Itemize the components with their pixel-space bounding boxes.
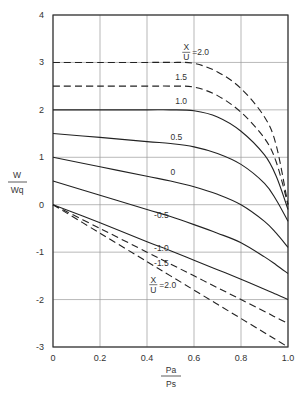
- curve-line: [53, 134, 288, 222]
- y-tick-label: 1: [39, 152, 44, 162]
- x-tick-label: 0.4: [141, 353, 154, 363]
- curve-line: [53, 86, 288, 205]
- curve-label: 0: [171, 167, 176, 177]
- curve-label: -0.5: [154, 210, 169, 220]
- curve-line: [53, 181, 288, 273]
- x-axis-label: Pa Ps: [161, 365, 181, 389]
- line-chart: 00.20.40.60.81.0 43210-1-2-3 XU=2.01.51.…: [0, 0, 304, 397]
- curve-label-fraction-den: U: [150, 285, 156, 295]
- curve-line: [53, 205, 288, 347]
- curve-line: [53, 205, 288, 324]
- curve-label: 0.5: [171, 132, 183, 142]
- x-tick-labels: 00.20.40.60.81.0: [50, 353, 294, 363]
- curve-label: 1.0: [175, 96, 187, 106]
- x-label-numerator: Pa: [166, 365, 177, 375]
- curve-label-fraction-num: X: [183, 42, 189, 52]
- y-tick-label: 4: [39, 10, 44, 20]
- y-label-denominator: Wq: [11, 185, 24, 195]
- y-tick-label: 0: [39, 200, 44, 210]
- curve-label-value: =2.0: [159, 280, 176, 290]
- x-tick-label: 0.6: [188, 353, 201, 363]
- y-tick-label: 2: [39, 105, 44, 115]
- y-tick-labels: 43210-1-2-3: [36, 10, 44, 352]
- x-label-denominator: Ps: [166, 379, 176, 389]
- curve-label-value: =2.0: [192, 47, 209, 57]
- curve-label-fraction-den: U: [183, 52, 189, 62]
- x-tick-label: 1.0: [282, 353, 295, 363]
- y-label-numerator: W: [13, 170, 21, 180]
- curve-label-fraction-num: X: [151, 275, 157, 285]
- curve-labels: XU=2.01.51.00.50-0.5-1.0-1.5XU=2.0: [149, 42, 209, 294]
- y-axis-label: W Wq: [8, 170, 27, 195]
- curve-label: -1.5: [154, 258, 169, 268]
- x-tick-label: 0.2: [94, 353, 107, 363]
- x-tick-label: 0: [50, 353, 55, 363]
- curve-label: 1.5: [175, 72, 187, 82]
- y-tick-label: -3: [36, 342, 44, 352]
- y-tick-label: 3: [39, 57, 44, 67]
- x-tick-label: 0.8: [235, 353, 248, 363]
- curve-label: -1.0: [154, 243, 169, 253]
- y-tick-label: -2: [36, 295, 44, 305]
- y-tick-label: -1: [36, 247, 44, 257]
